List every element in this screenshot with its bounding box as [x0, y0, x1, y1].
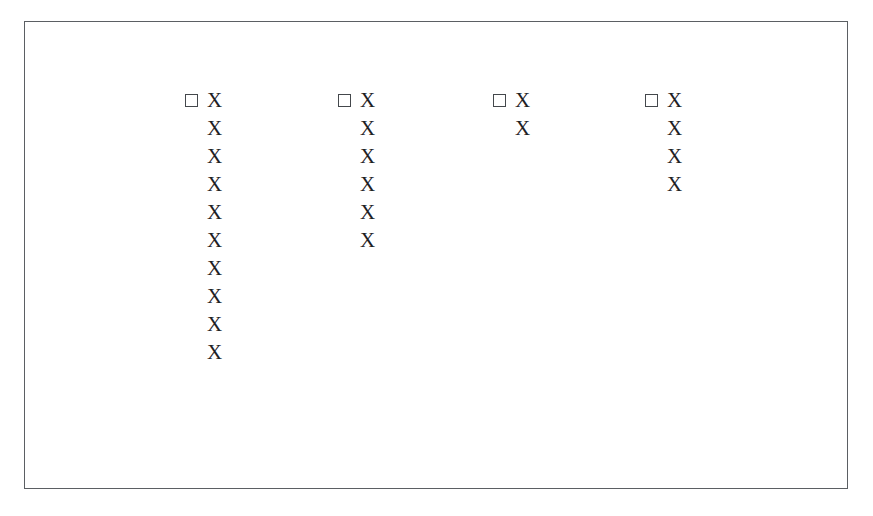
column-marks: X [515, 114, 613, 142]
unit-mark: X [207, 310, 305, 338]
unit-mark: X [667, 142, 765, 170]
unit-mark: X [207, 198, 305, 226]
column-header: X [645, 86, 765, 114]
unit-mark: X [207, 142, 305, 170]
unit-mark: X [360, 226, 458, 254]
column-header: X [338, 86, 458, 114]
checkbox-icon[interactable] [338, 94, 351, 107]
unit-mark: X [207, 86, 222, 114]
unit-mark: X [515, 114, 613, 142]
unit-mark: X [667, 170, 765, 198]
figure-page: X X X X X X X X X X X [0, 0, 873, 516]
unit-mark: X [207, 282, 305, 310]
unit-mark: X [667, 86, 682, 114]
plot-area: X X X X X X X X X X X [25, 22, 847, 488]
pictogram-column: X X [493, 86, 613, 142]
checkbox-icon[interactable] [645, 94, 658, 107]
unit-mark: X [515, 86, 530, 114]
column-header: X [185, 86, 305, 114]
pictogram-column: X X X X [645, 86, 765, 198]
unit-mark: X [360, 114, 458, 142]
unit-mark: X [207, 226, 305, 254]
column-marks: X X X X X X X X X [207, 114, 305, 366]
checkbox-icon[interactable] [185, 94, 198, 107]
pictogram-column: X X X X X X [338, 86, 458, 254]
checkbox-icon[interactable] [493, 94, 506, 107]
unit-mark: X [207, 170, 305, 198]
column-header: X [493, 86, 613, 114]
unit-mark: X [360, 142, 458, 170]
unit-mark: X [207, 114, 305, 142]
column-marks: X X X X X [360, 114, 458, 254]
column-marks: X X X [667, 114, 765, 198]
pictogram-column: X X X X X X X X X X [185, 86, 305, 366]
unit-mark: X [207, 338, 305, 366]
chart-frame: X X X X X X X X X X X [24, 21, 848, 489]
unit-mark: X [360, 198, 458, 226]
unit-mark: X [360, 170, 458, 198]
unit-mark: X [207, 254, 305, 282]
unit-mark: X [667, 114, 765, 142]
unit-mark: X [360, 86, 375, 114]
